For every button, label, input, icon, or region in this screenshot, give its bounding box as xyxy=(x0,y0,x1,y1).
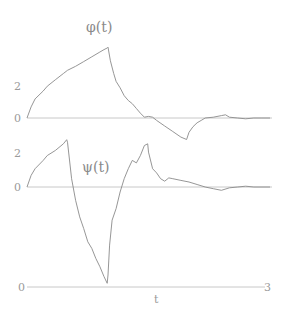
wavelet-chart: φ(t) 2 0 ψ(t) 2 0 0 3 t xyxy=(0,0,285,311)
x-axis: 0 3 t xyxy=(18,281,271,306)
phi-plot: φ(t) 2 0 xyxy=(14,19,272,140)
phi-curve xyxy=(27,47,270,139)
psi-tick-0: 0 xyxy=(14,181,21,194)
x-axis-label: t xyxy=(154,293,159,306)
psi-curve xyxy=(27,140,270,284)
phi-tick-2: 2 xyxy=(14,80,21,93)
phi-tick-0: 0 xyxy=(14,112,21,125)
psi-title: ψ(t) xyxy=(82,159,110,175)
psi-plot: ψ(t) 2 0 xyxy=(14,140,272,284)
psi-tick-2: 2 xyxy=(14,147,21,160)
phi-title: φ(t) xyxy=(86,19,112,35)
x-tick-0: 0 xyxy=(18,281,25,294)
x-tick-3: 3 xyxy=(264,281,271,294)
